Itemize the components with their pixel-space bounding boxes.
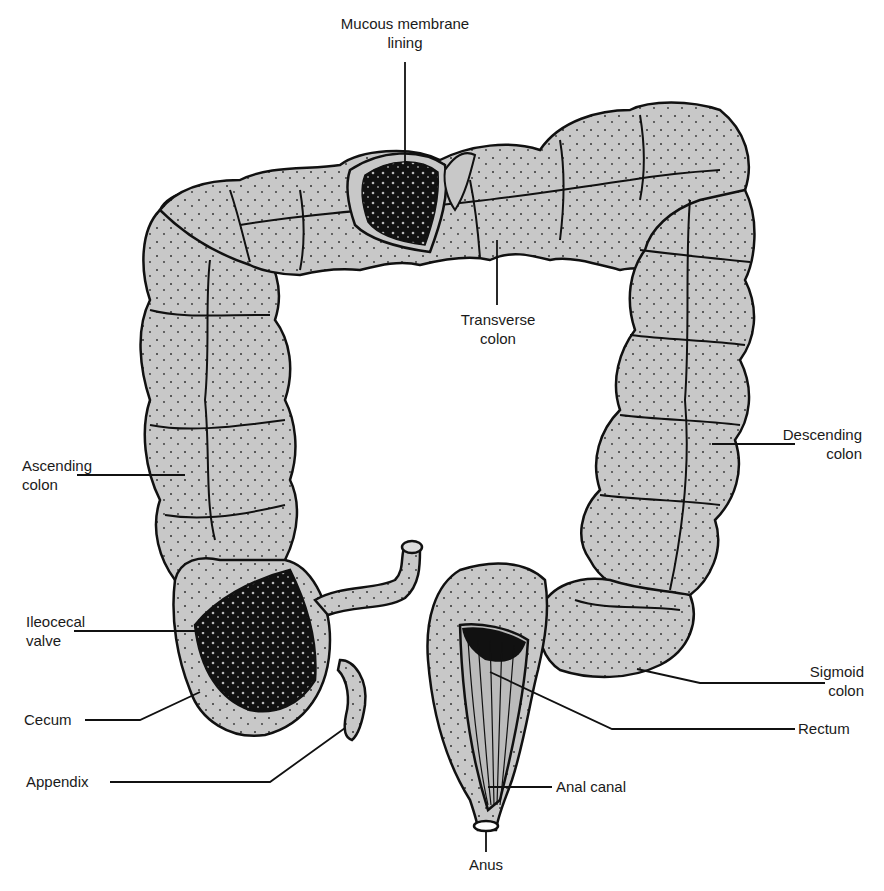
sigmoid-colon-shape (539, 579, 694, 677)
leader-cecum (85, 692, 200, 720)
label-rectum: Rectum (798, 719, 850, 738)
label-ileocecal-valve-line2: valve (26, 631, 85, 650)
label-sigmoid-colon-line2: colon (780, 681, 864, 700)
label-sigmoid-colon: Sigmoid colon (780, 662, 864, 700)
ileum-shape (315, 541, 422, 615)
rectum-shape (427, 563, 547, 831)
label-descending-colon-line1: Descending (760, 425, 862, 444)
label-ascending-colon-line1: Ascending (22, 456, 92, 475)
leader-appendix (110, 728, 345, 782)
label-mucous-membrane-line1: Mucous membrane (318, 14, 492, 33)
label-transverse-colon-line2: colon (448, 329, 548, 348)
cecum-shape (173, 558, 330, 736)
label-descending-colon: Descending colon (760, 425, 862, 463)
label-anus: Anus (456, 855, 516, 874)
label-sigmoid-colon-line1: Sigmoid (780, 662, 864, 681)
label-appendix: Appendix (26, 772, 89, 791)
label-ileocecal-valve-line1: Ileocecal (26, 612, 85, 631)
label-transverse-colon: Transverse colon (448, 310, 548, 348)
label-mucous-membrane: Mucous membrane lining (318, 14, 492, 52)
label-transverse-colon-line1: Transverse (448, 310, 548, 329)
appendix-shape (338, 660, 365, 740)
label-mucous-membrane-line2: lining (318, 33, 492, 52)
label-anal-canal: Anal canal (556, 777, 626, 796)
label-ileocecal-valve: Ileocecal valve (26, 612, 85, 650)
colon-diagram (0, 0, 884, 891)
label-descending-colon-line2: colon (760, 444, 862, 463)
label-ascending-colon-line2: colon (22, 475, 92, 494)
label-cecum: Cecum (24, 710, 72, 729)
label-ascending-colon: Ascending colon (22, 456, 92, 494)
